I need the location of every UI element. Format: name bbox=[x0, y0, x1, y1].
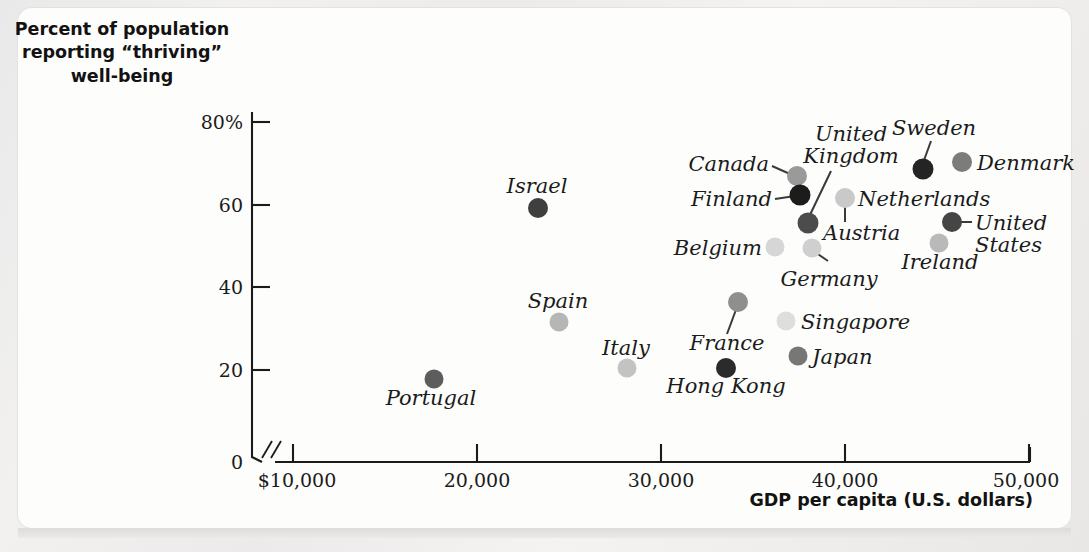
data-point-netherlands[interactable] bbox=[835, 188, 855, 208]
data-point-italy[interactable] bbox=[618, 359, 637, 378]
data-point-germany[interactable] bbox=[803, 239, 822, 258]
point-label-united-states-2: States bbox=[975, 233, 1042, 257]
y-tick-label-60: 60 bbox=[219, 194, 243, 216]
data-point-singapore[interactable] bbox=[777, 312, 796, 331]
point-label-singapore: Singapore bbox=[801, 310, 910, 334]
point-label-france: France bbox=[689, 331, 765, 355]
data-point-denmark[interactable] bbox=[952, 152, 972, 172]
data-point-spain[interactable] bbox=[550, 313, 569, 332]
data-point-france[interactable] bbox=[728, 292, 748, 312]
point-label-israel: Israel bbox=[506, 174, 568, 198]
axis-break-mark-1 bbox=[262, 441, 272, 458]
point-label-japan: Japan bbox=[808, 345, 872, 369]
y-tick-label-80: 80% bbox=[201, 111, 243, 133]
y-tick-label-0: 0 bbox=[231, 451, 243, 473]
data-point-canada[interactable] bbox=[787, 166, 807, 186]
point-label-belgium: Belgium bbox=[673, 236, 762, 260]
y-tick-label-40: 40 bbox=[219, 276, 243, 298]
x-tick-label-30000: 30,000 bbox=[628, 469, 694, 491]
leader-line-united-kingdom bbox=[808, 171, 831, 219]
y-axis-foot bbox=[252, 441, 262, 462]
data-point-united-kingdom[interactable] bbox=[798, 213, 819, 234]
axis-group bbox=[252, 112, 1030, 462]
scatter-plot: Percent of population reporting “thrivin… bbox=[0, 0, 1089, 552]
point-label-sweden: Sweden bbox=[892, 116, 976, 140]
data-point-united-states[interactable] bbox=[942, 212, 962, 232]
y-tick-labels: 80% 60 40 20 0 bbox=[201, 111, 243, 473]
point-label-united-states-1: United bbox=[975, 211, 1047, 235]
point-label-canada: Canada bbox=[688, 152, 769, 176]
x-tick-label-50000: 50,000 bbox=[993, 469, 1059, 491]
x-tick-label-20000: 20,000 bbox=[444, 469, 510, 491]
x-axis-title: GDP per capita (U.S. dollars) bbox=[749, 490, 1033, 510]
leader-line-canada bbox=[772, 166, 790, 174]
chart-canvas: 80% 60 40 20 0 $10,000 20,000 30,000 40,… bbox=[0, 0, 1089, 552]
point-label-denmark: Denmark bbox=[976, 151, 1075, 175]
x-tick-label-10000: $10,000 bbox=[258, 469, 337, 491]
point-label-italy: Italy bbox=[601, 336, 651, 360]
point-label-germany: Germany bbox=[780, 267, 878, 291]
data-point-sweden[interactable] bbox=[913, 159, 934, 180]
point-label-portugal: Portugal bbox=[385, 386, 477, 410]
data-point-japan[interactable] bbox=[789, 347, 808, 366]
point-label-finland: Finland bbox=[690, 187, 772, 211]
point-label-united-kingdom-1: United bbox=[815, 122, 887, 146]
point-label-united-kingdom-2: Kingdom bbox=[802, 144, 898, 168]
x-tick-labels: $10,000 20,000 30,000 40,000 50,000 bbox=[258, 469, 1060, 491]
x-tick-label-40000: 40,000 bbox=[812, 469, 878, 491]
point-label-hong-kong: Hong Kong bbox=[665, 374, 785, 398]
point-label-austria: Austria bbox=[821, 221, 900, 245]
data-point-belgium[interactable] bbox=[766, 238, 785, 257]
data-point-israel[interactable] bbox=[528, 198, 548, 218]
point-label-spain: Spain bbox=[528, 289, 589, 313]
y-tick-label-20: 20 bbox=[219, 359, 243, 381]
data-point-finland[interactable] bbox=[790, 185, 811, 206]
point-label-ireland: Ireland bbox=[901, 250, 979, 274]
point-label-netherlands: Netherlands bbox=[857, 187, 990, 211]
axis-break-mark-2 bbox=[271, 441, 281, 458]
